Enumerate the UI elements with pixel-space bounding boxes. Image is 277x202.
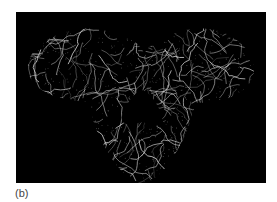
figure-panel [16,12,266,183]
molecular-wireframe-image [16,12,266,183]
cavity [122,90,163,125]
panel-label: (b) [15,187,28,199]
